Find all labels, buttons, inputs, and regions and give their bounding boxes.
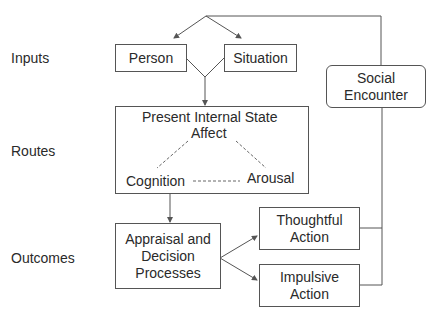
- node-impulsive-line1: Impulsive: [280, 269, 339, 286]
- node-appraisal-line2: Decision: [141, 248, 195, 265]
- arrow-to-impulsive: [220, 258, 257, 280]
- node-thoughtful-line2: Action: [290, 229, 329, 246]
- merge-v: [186, 58, 224, 77]
- node-situation: Situation: [224, 44, 297, 72]
- node-situation-label: Situation: [233, 50, 287, 67]
- node-appraisal-decision: Appraisal and Decision Processes: [115, 223, 221, 289]
- pis-arousal: Arousal: [247, 170, 294, 186]
- node-appraisal-line1: Appraisal and: [125, 231, 211, 248]
- pis-affect: Affect: [191, 125, 227, 141]
- node-person: Person: [115, 44, 187, 72]
- arrow-to-thoughtful: [220, 236, 257, 258]
- row-label-outcomes: Outcomes: [11, 250, 75, 266]
- node-person-label: Person: [129, 50, 173, 67]
- arrow-to-situation: [206, 16, 241, 38]
- node-impulsive-line2: Action: [290, 286, 329, 303]
- node-appraisal-line3: Processes: [135, 265, 200, 282]
- pis-cognition: Cognition: [126, 173, 185, 189]
- impulsive-to-social: [359, 107, 382, 285]
- pis-title: Present Internal State: [142, 109, 277, 125]
- node-thoughtful-line1: Thoughtful: [276, 212, 342, 229]
- row-label-routes: Routes: [11, 143, 55, 159]
- node-social-encounter: Social Encounter: [326, 65, 426, 108]
- node-thoughtful-action: Thoughtful Action: [259, 207, 360, 250]
- node-social-encounter-line1: Social: [357, 70, 395, 87]
- node-social-encounter-line2: Encounter: [344, 87, 408, 104]
- arrow-to-person: [174, 16, 206, 38]
- node-impulsive-action: Impulsive Action: [259, 264, 360, 307]
- row-label-inputs: Inputs: [11, 50, 49, 66]
